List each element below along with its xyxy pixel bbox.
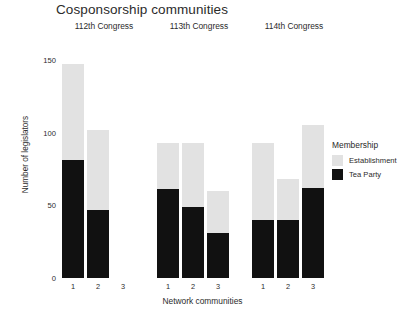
y-axis-tick-100: 100 bbox=[30, 128, 56, 137]
y-axis-tick-150: 150 bbox=[30, 56, 56, 65]
y-axis-ticks: 050100150 bbox=[30, 0, 56, 318]
bar-segment-establishment[interactable] bbox=[157, 143, 179, 190]
x-axis-tick: 1 bbox=[252, 282, 274, 291]
chart-title: Cosponsorship communities bbox=[56, 2, 228, 17]
legend-swatch-icon bbox=[332, 155, 343, 166]
bar-segment-establishment[interactable] bbox=[277, 179, 299, 220]
bar-segment-establishment[interactable] bbox=[252, 143, 274, 220]
facet-panel-3: 123 bbox=[250, 60, 338, 278]
bar-segment-tea-party[interactable] bbox=[302, 188, 324, 278]
x-axis-tick: 1 bbox=[62, 282, 84, 291]
x-axis-tick: 3 bbox=[207, 282, 229, 291]
bar-segment-tea-party[interactable] bbox=[252, 220, 274, 278]
legend-swatch-icon bbox=[332, 169, 343, 180]
x-axis-tick: 2 bbox=[87, 282, 109, 291]
bar-segment-tea-party[interactable] bbox=[277, 220, 299, 278]
legend-item-label: Establishment bbox=[349, 156, 397, 165]
legend-entries: EstablishmentTea Party bbox=[332, 155, 397, 180]
legend-item-label: Tea Party bbox=[349, 170, 381, 179]
bar-stack[interactable] bbox=[302, 125, 324, 278]
legend-item[interactable]: Establishment bbox=[332, 155, 397, 166]
x-axis-tick: 3 bbox=[302, 282, 324, 291]
x-axis-tick: 2 bbox=[277, 282, 299, 291]
facet-label-1: 112th Congress bbox=[60, 21, 148, 31]
x-axis-tick: 1 bbox=[157, 282, 179, 291]
legend-title: Membership bbox=[332, 140, 397, 150]
facet-panel-1: 123 bbox=[60, 60, 148, 278]
legend-item[interactable]: Tea Party bbox=[332, 169, 397, 180]
x-axis-tick: 2 bbox=[182, 282, 204, 291]
cosponsorship-chart: Cosponsorship communities 112th Congress… bbox=[0, 0, 419, 318]
y-axis-tick-0: 0 bbox=[30, 274, 56, 283]
x-axis-tick: 3 bbox=[112, 282, 134, 291]
bar-stack[interactable] bbox=[157, 143, 179, 278]
bar-segment-tea-party[interactable] bbox=[182, 207, 204, 278]
x-axis-label: Network communities bbox=[60, 296, 345, 306]
bar-segment-tea-party[interactable] bbox=[87, 210, 109, 278]
facet-label-3: 114th Congress bbox=[250, 21, 338, 31]
bar-stack[interactable] bbox=[252, 143, 274, 278]
bar-segment-establishment[interactable] bbox=[182, 143, 204, 207]
bar-segment-tea-party[interactable] bbox=[62, 160, 84, 278]
bar-stack[interactable] bbox=[87, 130, 109, 278]
y-axis-label: Number of legislators bbox=[21, 85, 30, 225]
bar-stack[interactable] bbox=[277, 179, 299, 278]
bar-stack[interactable] bbox=[207, 191, 229, 278]
bar-segment-tea-party[interactable] bbox=[157, 189, 179, 278]
bar-segment-establishment[interactable] bbox=[87, 130, 109, 210]
bar-stack[interactable] bbox=[182, 143, 204, 278]
facet-label-2: 113th Congress bbox=[155, 21, 243, 31]
bar-segment-establishment[interactable] bbox=[62, 64, 84, 160]
plot-area: 123123123 bbox=[60, 60, 345, 278]
bar-segment-establishment[interactable] bbox=[302, 125, 324, 187]
bar-stack[interactable] bbox=[62, 64, 84, 278]
legend: Membership EstablishmentTea Party bbox=[332, 140, 397, 183]
facet-panel-2: 123 bbox=[155, 60, 243, 278]
bar-segment-establishment[interactable] bbox=[207, 191, 229, 233]
bar-segment-tea-party[interactable] bbox=[207, 233, 229, 278]
y-axis-tick-50: 50 bbox=[30, 201, 56, 210]
